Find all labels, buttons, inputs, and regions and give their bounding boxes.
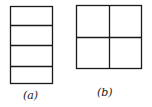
- figure-a-label: (a): [23, 90, 38, 101]
- figure-a-strips: [11, 7, 53, 84]
- figure-b-label: (b): [97, 87, 113, 98]
- figure-b-grid: [77, 6, 142, 69]
